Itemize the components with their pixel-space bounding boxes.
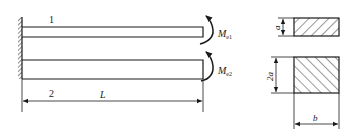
moment-arrow-1 xyxy=(200,16,213,44)
section-2-height-label: 2a xyxy=(265,72,275,82)
beam-1-outline xyxy=(22,27,203,37)
beam-2-outline xyxy=(22,60,203,79)
length-label: L xyxy=(99,89,106,100)
fixed-support xyxy=(18,17,22,79)
section-2-hatch xyxy=(294,57,339,93)
beam-1-label: 1 xyxy=(49,14,54,25)
beam-2-label: 2 xyxy=(49,88,54,99)
beam-diagram: 1 Me1 2 Me2 L a 2a b xyxy=(0,0,352,133)
moment-label-1: Me1 xyxy=(217,28,232,40)
beam-2: 2 Me2 xyxy=(22,52,232,99)
moment-2-subscript: e2 xyxy=(226,71,232,77)
cross-section-2: 2a b xyxy=(265,57,339,129)
moment-1-subscript: e1 xyxy=(226,34,232,40)
moment-label-2: Me2 xyxy=(217,65,232,77)
section-2-width-label: b xyxy=(313,113,318,123)
section-1-hatch xyxy=(294,18,339,36)
section-1-height-label: a xyxy=(272,25,282,30)
cross-section-1: a xyxy=(272,18,339,36)
beam-1: 1 Me1 xyxy=(22,14,232,44)
